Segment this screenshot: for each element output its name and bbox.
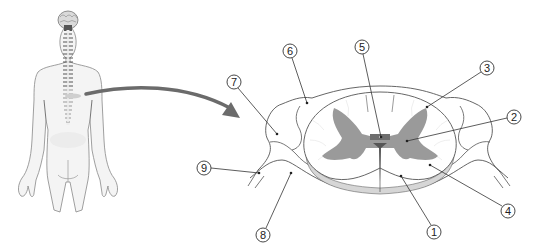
callout-6[interactable]: 6 bbox=[283, 44, 308, 104]
callout-3[interactable]: 3 bbox=[426, 61, 494, 108]
callout-number: 6 bbox=[287, 45, 293, 57]
pointer-arrow bbox=[86, 88, 240, 118]
leader-line bbox=[427, 72, 481, 107]
leader-line bbox=[211, 168, 259, 173]
target-dot bbox=[380, 136, 383, 139]
callout-8[interactable]: 8 bbox=[256, 172, 292, 242]
callout-number: 4 bbox=[505, 205, 511, 217]
target-dot bbox=[290, 172, 293, 175]
leader-line bbox=[238, 88, 277, 134]
callout-number: 9 bbox=[201, 162, 207, 174]
callout-number: 7 bbox=[231, 76, 237, 88]
spinal-cord-cross-section bbox=[248, 86, 510, 194]
callout-4[interactable]: 4 bbox=[429, 164, 515, 218]
target-dot bbox=[258, 172, 261, 175]
selected-segment-highlight bbox=[65, 94, 81, 99]
target-dot bbox=[276, 133, 279, 136]
leader-line bbox=[430, 165, 502, 206]
target-dot bbox=[400, 175, 403, 178]
spinal-nerve-right bbox=[494, 172, 510, 188]
callout-number: 2 bbox=[511, 111, 517, 123]
spinal-cord-diagram: 1 2 3 4 5 bbox=[0, 0, 535, 252]
callout-number: 3 bbox=[484, 62, 490, 74]
target-dot bbox=[426, 106, 429, 109]
leader-line bbox=[292, 58, 307, 103]
target-dot bbox=[306, 102, 309, 105]
hip-shading bbox=[50, 132, 86, 148]
target-dot bbox=[429, 164, 432, 167]
callout-number: 8 bbox=[260, 229, 266, 241]
callout-7[interactable]: 7 bbox=[227, 75, 278, 135]
target-dot bbox=[406, 140, 409, 143]
callout-number: 1 bbox=[431, 226, 437, 238]
leader-line bbox=[266, 173, 291, 228]
human-body-figure bbox=[18, 11, 117, 212]
callout-number: 5 bbox=[359, 41, 365, 53]
dorsal-root-ganglion-left bbox=[292, 106, 302, 150]
callout-9[interactable]: 9 bbox=[197, 161, 260, 175]
